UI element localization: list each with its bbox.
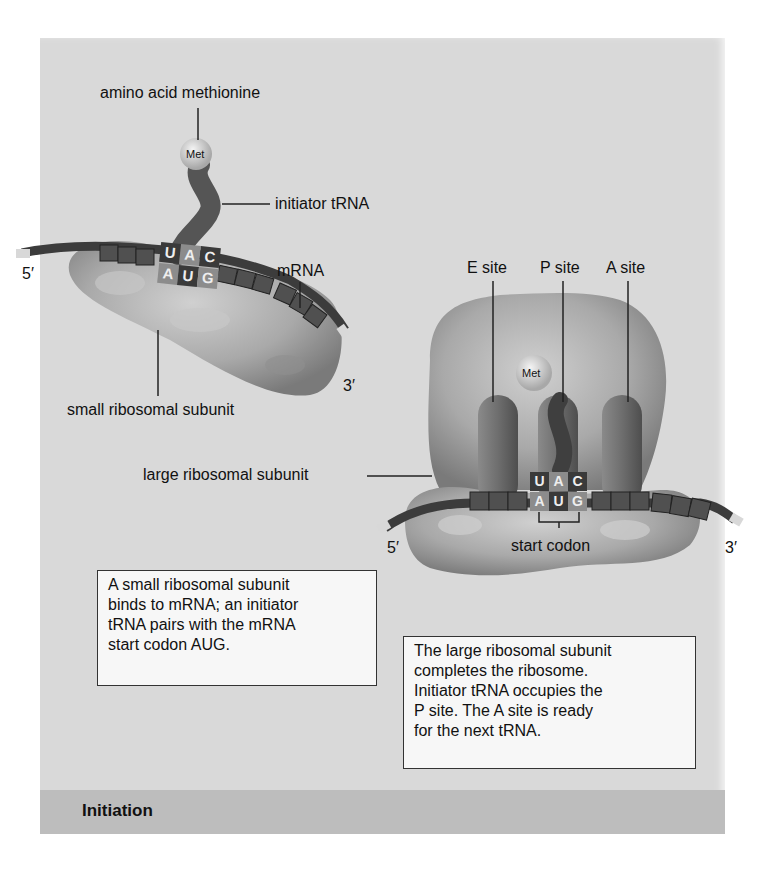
- codon-tile: U: [159, 242, 181, 264]
- caption-box-left: A small ribosomal subunit binds to mRNA;…: [97, 570, 377, 686]
- label-small-subunit: small ribosomal subunit: [67, 401, 234, 419]
- codon-tile: G: [197, 267, 219, 289]
- codon-tile: A: [530, 492, 549, 511]
- caption-line: tRNA pairs with the mRNA: [108, 615, 366, 635]
- caption-box-right: The large ribosomal subunit completes th…: [403, 636, 696, 769]
- label-5-prime-left: 5′: [22, 265, 34, 283]
- codon-tile: U: [177, 265, 199, 287]
- label-e-site: E site: [467, 259, 507, 277]
- codon-tile: G: [568, 492, 587, 511]
- codon-tile: C: [199, 246, 221, 268]
- caption-line: completes the ribosome.: [414, 661, 685, 681]
- codon-right: A U G: [530, 492, 587, 511]
- codon-tile: U: [549, 492, 568, 511]
- label-a-site: A site: [606, 259, 645, 277]
- caption-line: P site. The A site is ready: [414, 701, 685, 721]
- label-amino-acid: amino acid methionine: [100, 84, 260, 102]
- initiator-trna-right: [556, 400, 565, 470]
- label-3-prime-right: 3′: [725, 539, 737, 557]
- label-met-right: Met: [522, 367, 540, 379]
- codon-tile: A: [549, 472, 568, 491]
- stage-title: Initiation: [82, 801, 153, 821]
- caption-line: binds to mRNA; an initiator: [108, 595, 366, 615]
- codon-tile: A: [157, 263, 179, 285]
- a-site-pill: [602, 395, 642, 505]
- label-5-prime-right: 5′: [387, 539, 399, 557]
- e-site-pill: [478, 395, 518, 505]
- label-start-codon: start codon: [511, 537, 590, 555]
- caption-line: start codon AUG.: [108, 635, 366, 655]
- codon-tile: U: [530, 472, 549, 491]
- codon-tile: C: [568, 472, 587, 491]
- label-met-left: Met: [186, 148, 204, 160]
- caption-line: A small ribosomal subunit: [108, 575, 366, 595]
- caption-line: Initiator tRNA occupies the: [414, 681, 685, 701]
- label-large-subunit: large ribosomal subunit: [143, 466, 308, 484]
- caption-line: The large ribosomal subunit: [414, 641, 685, 661]
- caption-line: for the next tRNA.: [414, 721, 685, 741]
- label-initiator-trna: initiator tRNA: [275, 195, 369, 213]
- codon-tile: A: [179, 244, 201, 266]
- label-mrna: mRNA: [277, 262, 324, 280]
- label-p-site: P site: [540, 259, 580, 277]
- anticodon-right: U A C: [530, 472, 587, 491]
- label-3-prime-left: 3′: [343, 377, 355, 395]
- stage-footer: Initiation: [40, 790, 725, 834]
- initiator-trna-left: [178, 165, 211, 255]
